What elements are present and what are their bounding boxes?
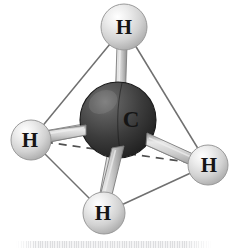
hydrogen-bottom-sphere — [83, 192, 125, 234]
hydrogen-top-sphere — [101, 4, 147, 50]
hydrogen-top: H — [101, 4, 147, 50]
methane-model-figure: C H H H — [0, 0, 237, 252]
hydrogen-right: H — [188, 145, 228, 185]
hydrogen-left-sphere — [11, 120, 51, 160]
molecule-diagram: C H H H — [0, 0, 237, 252]
hydrogen-bottom: H — [83, 192, 125, 234]
hydrogen-right-sphere — [188, 145, 228, 185]
scan-artifact-strip — [16, 241, 212, 248]
hydrogen-left: H — [11, 120, 51, 160]
